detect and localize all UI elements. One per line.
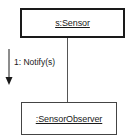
message-arrow-down-icon xyxy=(4,49,14,85)
observer-object-label: :SensorObserver xyxy=(36,114,103,124)
sensor-object-box: s:Sensor xyxy=(20,8,125,38)
sensor-object-label: s:Sensor xyxy=(55,18,90,28)
association-link xyxy=(67,38,68,102)
message-label: 1: Notify(s) xyxy=(14,57,55,67)
observer-object-box: :SensorObserver xyxy=(21,102,117,135)
